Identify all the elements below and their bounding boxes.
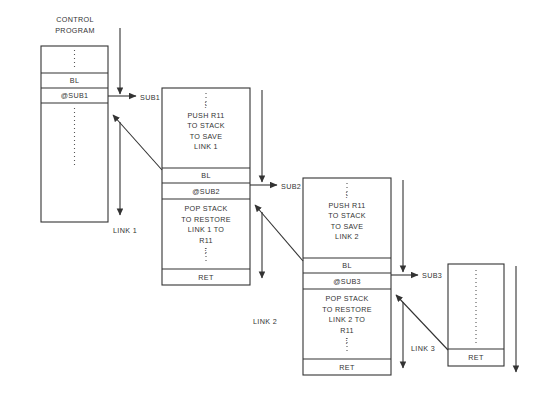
sub1-entry-label: SUB1 (140, 93, 160, 103)
sub2-entry-label: SUB2 (281, 182, 301, 192)
link-3-label: LINK 3 (411, 344, 435, 354)
sub1-ret: RET (162, 273, 250, 284)
sub2-bl: BL (303, 261, 391, 272)
link-2-label: LINK 2 (253, 317, 277, 327)
sub2-ret: RET (303, 363, 391, 374)
sub3-return-to-sub2-arrow (396, 295, 448, 350)
sub3-box (448, 264, 504, 366)
diagram-canvas: CONTROL PROGRAM (0, 0, 546, 396)
sub2-push: ⋮ PUSH R11 TO STACK TO SAVE LINK 2 (303, 190, 391, 243)
control-bl: BL (41, 76, 108, 87)
sub3-ret: RET (448, 353, 504, 364)
link-1-label: LINK 1 (113, 226, 137, 236)
sub2-pop: POP STACK TO RESTORE LINK 2 TO R11 ⋮ (303, 294, 391, 347)
control-ellipsis-top (41, 46, 108, 73)
sub1-sub2-ref: @SUB2 (162, 187, 250, 198)
sub1-bl: BL (162, 171, 250, 182)
control-sub1-ref: @SUB1 (41, 91, 108, 102)
sub2-sub3-ref: @SUB3 (303, 277, 391, 288)
sub3-entry-label: SUB3 (422, 271, 442, 281)
sub1-push: ⋮ PUSH R11 TO STACK TO SAVE LINK 1 (162, 100, 250, 153)
sub1-pop: POP STACK TO RESTORE LINK 1 TO R11 ⋮ (162, 204, 250, 257)
